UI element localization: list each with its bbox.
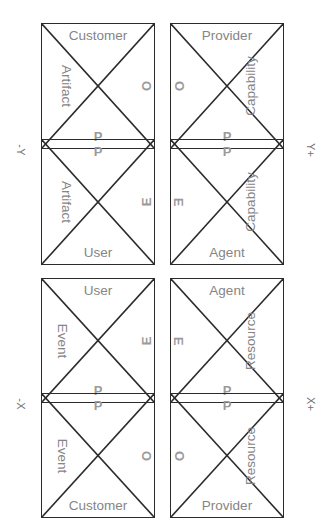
axis-label-plus-y: Y+ bbox=[305, 133, 317, 167]
cell-provider-capability[interactable]: Provider O Capability P bbox=[170, 23, 284, 149]
triangle-label-right: O bbox=[139, 81, 152, 91]
triangle-label-top: Customer bbox=[42, 29, 154, 43]
triangle-label-left: Event bbox=[56, 438, 70, 473]
axis-label-plus-x: X+ bbox=[305, 387, 317, 421]
cell-customer-event[interactable]: P Event O Customer bbox=[41, 393, 155, 518]
group-bottom-left: User Event E P P Event O Customer bbox=[41, 278, 155, 518]
triangle-label-left: Artifact bbox=[59, 65, 73, 107]
triangle-label-bottom: Agent bbox=[171, 246, 283, 260]
triangle-label-right: E bbox=[140, 336, 153, 345]
triangle-label-left: O bbox=[173, 81, 186, 91]
triangle-label-left: E bbox=[172, 198, 185, 207]
triangle-label-right: E bbox=[140, 198, 153, 207]
axis-label-minus-x: -X bbox=[15, 387, 27, 421]
diagram-canvas: -Y Y+ -X X+ Customer Artifact O P P Arti… bbox=[0, 0, 330, 529]
triangle-label-right: Capability bbox=[244, 172, 258, 231]
triangle-label-top: Provider bbox=[171, 29, 283, 43]
cell-customer-artifact[interactable]: Customer Artifact O P bbox=[41, 23, 155, 149]
triangle-label-left: Artifact bbox=[59, 181, 73, 223]
group-top-left: Customer Artifact O P P Artifact E User bbox=[41, 23, 155, 265]
triangle-label-right: O bbox=[139, 450, 152, 460]
group-top-right: Provider O Capability P P E Capability A… bbox=[170, 23, 284, 265]
triangle-label-top: P bbox=[42, 399, 154, 412]
triangle-label-left: Event bbox=[56, 323, 70, 358]
triangle-label-left: O bbox=[173, 450, 186, 460]
cell-user-event[interactable]: User Event E P bbox=[41, 278, 155, 403]
cell-user-artifact[interactable]: P Artifact E User bbox=[41, 139, 155, 265]
triangle-label-top: Agent bbox=[171, 284, 283, 298]
cell-agent-resource[interactable]: Agent E Resource P bbox=[170, 278, 284, 403]
triangle-label-left: E bbox=[172, 336, 185, 345]
triangle-label-bottom: Provider bbox=[171, 499, 283, 513]
triangle-label-top: P bbox=[171, 145, 283, 158]
triangle-label-top: P bbox=[171, 399, 283, 412]
triangle-label-bottom: User bbox=[42, 246, 154, 260]
triangle-label-top: P bbox=[42, 145, 154, 158]
triangle-label-bottom: Customer bbox=[42, 499, 154, 513]
axis-label-minus-y: -Y bbox=[15, 133, 27, 167]
triangle-label-top: User bbox=[42, 284, 154, 298]
triangle-label-right: Resource bbox=[244, 312, 258, 370]
group-bottom-right: Agent E Resource P P O Resource Provider bbox=[170, 278, 284, 518]
cell-provider-resource[interactable]: P O Resource Provider bbox=[170, 393, 284, 518]
triangle-label-right: Capability bbox=[244, 56, 258, 115]
cell-agent-capability[interactable]: P E Capability Agent bbox=[170, 139, 284, 265]
triangle-label-right: Resource bbox=[244, 427, 258, 485]
